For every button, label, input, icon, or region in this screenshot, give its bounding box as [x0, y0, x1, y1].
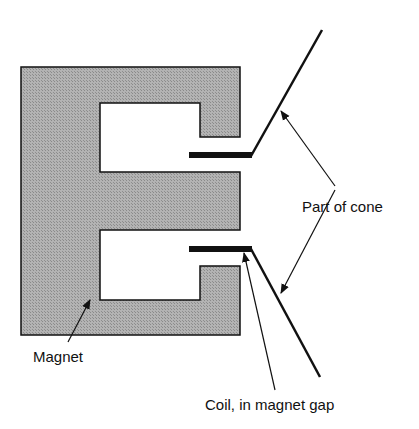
lower-coil [189, 246, 252, 252]
cone-arrow-upper [281, 111, 335, 186]
coil-arrow [244, 253, 275, 390]
label-coil: Coil, in magnet gap [205, 396, 334, 413]
upper-coil [189, 152, 252, 158]
label-magnet: Magnet [33, 348, 84, 365]
lower-cone-line [251, 249, 320, 377]
magnet-body [21, 67, 240, 335]
upper-cone-line [251, 30, 322, 156]
label-part-of-cone: Part of cone [302, 198, 383, 215]
speaker-diagram: Part of cone Magnet Coil, in magnet gap [0, 0, 419, 429]
